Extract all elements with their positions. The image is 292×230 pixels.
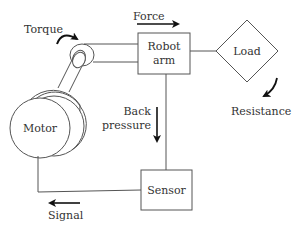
force-label: Force	[133, 10, 165, 23]
robot-arm-label-line2: arm	[153, 54, 176, 67]
sensor-label: Sensor	[147, 184, 186, 197]
signal-label: Signal	[48, 209, 84, 222]
resistance-label: Resistance	[231, 105, 291, 118]
torque-label: Torque	[24, 23, 63, 36]
motor-block: Motor	[10, 90, 86, 158]
resistance-arrow-icon	[264, 78, 277, 96]
back-pressure-label-line1: Back	[124, 105, 152, 118]
load-label: Load	[233, 45, 261, 58]
torque-arrow-icon	[57, 35, 77, 44]
back-pressure-label-line2: pressure	[102, 119, 151, 132]
sensor-block: Sensor	[141, 170, 192, 210]
robot-arm-label-line1: Robot	[148, 40, 182, 53]
signal-line	[38, 156, 141, 192]
motor-label: Motor	[23, 122, 58, 135]
robot-arm-block: Robot arm	[138, 33, 190, 74]
control-loop-diagram: Motor Robot arm Load Sensor Torque	[0, 0, 292, 230]
arm-joint	[70, 44, 94, 70]
arm-link	[84, 44, 138, 62]
load-block: Load	[216, 20, 278, 82]
